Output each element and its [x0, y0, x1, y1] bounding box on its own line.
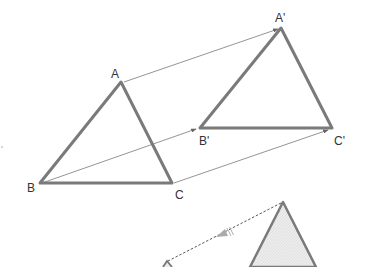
label-B-prime: B' — [199, 134, 209, 148]
vector-B-to-B-prime — [42, 129, 196, 183]
arrowhead-icon — [216, 229, 228, 237]
vector-A-to-A-prime — [124, 29, 278, 82]
triangle-ABC — [40, 82, 172, 183]
translation-diagram: A B C A' B' C' ' — [0, 0, 367, 267]
label-C: C — [175, 188, 184, 202]
stray-mark: ' — [1, 144, 3, 154]
label-A: A — [111, 67, 119, 81]
label-A-prime: A' — [275, 11, 285, 25]
label-C-prime: C' — [334, 134, 345, 148]
partial-shape-corner — [163, 261, 172, 267]
diagram-canvas: A B C A' B' C' ' — [0, 0, 367, 267]
triangle-A-prime-B-prime-C-prime — [200, 28, 332, 128]
label-B: B — [27, 181, 35, 195]
vector-C-to-C-prime — [174, 130, 328, 183]
shaded-triangle — [250, 202, 316, 267]
